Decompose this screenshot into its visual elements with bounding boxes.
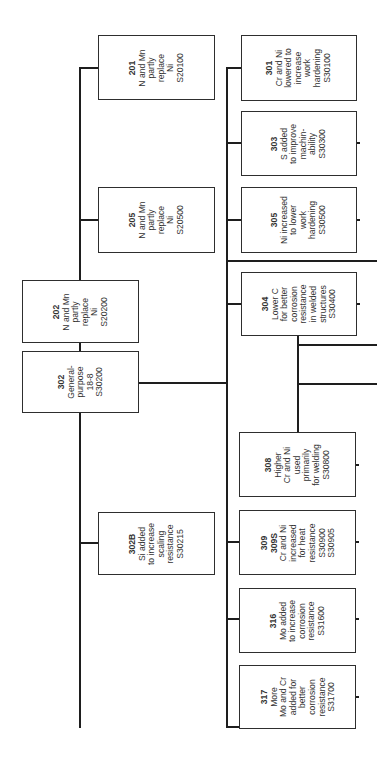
connector-302-right xyxy=(138,382,228,384)
node-text: Mo and Cr xyxy=(278,677,288,717)
connector-303 xyxy=(226,142,242,144)
node-text: corrosion xyxy=(307,677,317,717)
node-text: to increase xyxy=(147,522,157,564)
connector-309 xyxy=(226,541,240,543)
node-text: S31600 xyxy=(317,599,327,641)
node-text: for welding xyxy=(312,444,322,486)
node-text: S30500 xyxy=(318,196,328,244)
node-202: 202 N and Mn partly replace Ni S20200 xyxy=(22,280,139,343)
node-code: 302 xyxy=(57,365,67,398)
node-text: S30100 xyxy=(323,48,333,88)
node-text: S20200 xyxy=(100,293,110,330)
node-text: S30800 xyxy=(321,444,331,486)
node-code: 302B xyxy=(128,522,138,564)
node-text: S30215 xyxy=(176,522,186,564)
node-code: 205 xyxy=(128,201,138,238)
connector-316 xyxy=(226,618,240,620)
node-text: Cr and Ni xyxy=(283,444,293,486)
node-308: 308 Higher Cr and Ni used primarily for … xyxy=(239,432,356,497)
node-text: resistance xyxy=(307,523,317,562)
branch-line-304-a xyxy=(297,344,377,346)
node-304: 304 Lower C for better corrosion resista… xyxy=(241,272,357,336)
connector-317 xyxy=(226,726,240,728)
node-text: S30400 xyxy=(328,284,338,323)
connector-305 xyxy=(226,219,242,221)
connector-302B xyxy=(79,542,99,544)
node-text: S30300 xyxy=(318,123,328,163)
branch-line-304-b xyxy=(297,383,377,385)
node-302-root: 302 General- purpose 18-8 S30200 xyxy=(22,351,139,413)
node-309: 309 309S Cr and Ni increased for heat re… xyxy=(239,510,356,575)
node-code: 202 xyxy=(52,293,62,330)
node-316: 316 Mo added to increase corrosion resis… xyxy=(239,588,356,653)
connector-304 xyxy=(226,303,242,305)
node-text: partly xyxy=(71,293,81,330)
node-text: purpose xyxy=(76,365,86,398)
node-303: 303 S added to improve machin- ability S… xyxy=(241,111,357,176)
node-text: S30905 xyxy=(326,523,336,562)
node-317: 317 More Mo and Cr added for better corr… xyxy=(239,665,356,729)
node-text: S20500 xyxy=(176,201,186,238)
node-205: 205 N and Mn partly replace Ni S20500 xyxy=(98,187,215,253)
node-305: 305 Ni increased to lower work hardening… xyxy=(241,187,357,253)
node-text: S20100 xyxy=(176,49,186,86)
node-text: Cr and Ni xyxy=(278,523,288,562)
node-text: S31700 xyxy=(326,677,336,717)
right-spine xyxy=(226,67,228,728)
node-code: 317 xyxy=(259,677,269,717)
node-text: S30200 xyxy=(95,365,105,398)
connector-301 xyxy=(226,67,242,69)
node-code: 201 xyxy=(128,49,138,86)
node-code: 309 xyxy=(259,523,269,562)
node-text: partly xyxy=(147,49,157,86)
connector-205 xyxy=(79,219,99,221)
node-code: 308 xyxy=(264,444,274,486)
node-301: 301 Cr and Ni lowered to increase work h… xyxy=(241,35,357,101)
node-302B: 302B Si added to increase scaling resist… xyxy=(98,512,215,575)
branch-line-upper xyxy=(226,260,377,262)
node-201: 201 N and Mn partly replace Ni S20100 xyxy=(98,35,215,100)
connector-201 xyxy=(79,67,99,69)
node-code: 316 xyxy=(269,599,279,641)
node-text: partly xyxy=(147,201,157,238)
node-text: to increase xyxy=(288,599,298,641)
